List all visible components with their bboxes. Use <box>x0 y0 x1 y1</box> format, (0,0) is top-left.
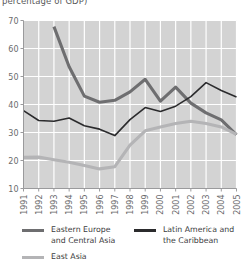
y-tick-label: 60 <box>8 45 18 54</box>
x-tick-label: 2005 <box>233 195 242 215</box>
y-tick-label: 70 <box>8 17 18 26</box>
x-tick-label: 2003 <box>202 195 211 215</box>
legend-label-eastern-europe: Eastern Europe and Central Asia <box>51 225 115 246</box>
x-tick-label: 1992 <box>35 195 44 215</box>
x-tick-label: 1993 <box>50 195 59 215</box>
x-tick-label: 2000 <box>156 195 165 215</box>
legend-item-latin-america: Latin America and the Caribbean <box>134 225 234 246</box>
x-tick-label: 1994 <box>65 195 74 215</box>
legend-swatch-east-asia <box>22 256 44 259</box>
legend-swatch-latin-america <box>134 229 156 232</box>
x-tick-label: 2002 <box>187 195 196 215</box>
x-tick-label: 1997 <box>111 195 120 215</box>
legend-item-east-asia: East Asia <box>22 252 87 263</box>
x-tick-label: 1991 <box>20 195 29 215</box>
y-tick-label: 20 <box>8 157 18 166</box>
x-tick-label: 1999 <box>141 195 150 215</box>
x-tick-label: 1995 <box>80 195 89 215</box>
x-tick-label: 1996 <box>96 195 105 215</box>
y-tick-label: 40 <box>8 101 18 110</box>
chart-figure: percentage of GDP) 102030405060701991199… <box>0 0 241 273</box>
x-tick-label: 1998 <box>126 195 135 215</box>
x-tick-label: 2001 <box>172 195 181 215</box>
legend-swatch-eastern-europe <box>22 229 44 232</box>
y-tick-label: 50 <box>8 73 18 82</box>
y-tick-label: 30 <box>8 129 18 138</box>
legend-label-east-asia: East Asia <box>51 252 87 263</box>
x-tick-label: 2004 <box>217 195 226 215</box>
legend-label-latin-america: Latin America and the Caribbean <box>163 225 234 246</box>
chart-title-clipped: percentage of GDP) <box>2 0 87 6</box>
y-tick-label: 10 <box>8 185 18 194</box>
line-chart-plot: 1020304050607019911992199319941995199619… <box>0 0 241 223</box>
legend-item-eastern-europe: Eastern Europe and Central Asia <box>22 225 115 246</box>
